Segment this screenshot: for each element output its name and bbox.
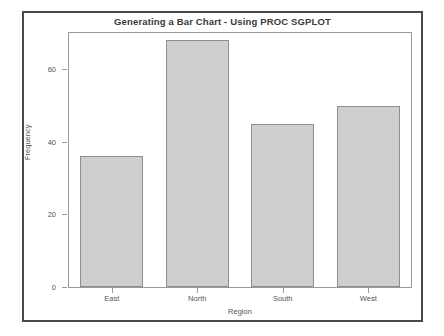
y-tick-mark [62,142,67,143]
x-tick-label-east: East [104,294,119,303]
bar-north [166,40,229,287]
bar-south [251,124,314,287]
x-tick-mark [197,288,198,293]
x-tick-label-north: North [188,294,206,303]
y-tick-label: 40 [30,137,56,146]
bar-east [80,156,143,287]
bar-west [337,106,400,287]
x-axis-title: Region [68,307,412,316]
x-tick-mark [283,288,284,293]
x-tick-label-west: West [360,294,377,303]
y-axis: Frequency 0204060 [0,0,68,336]
y-tick-mark [62,69,67,70]
y-tick-mark [62,214,67,215]
y-tick-label: 0 [30,283,56,292]
chart-title: Generating a Bar Chart - Using PROC SGPL… [22,16,423,27]
x-tick-mark [112,288,113,293]
bars-layer [69,33,411,287]
chart-screenshot: Generating a Bar Chart - Using PROC SGPL… [0,0,444,336]
x-tick-mark [368,288,369,293]
y-tick-mark [62,287,67,288]
y-tick-label: 20 [30,210,56,219]
y-tick-label: 60 [30,65,56,74]
x-tick-label-south: South [273,294,293,303]
